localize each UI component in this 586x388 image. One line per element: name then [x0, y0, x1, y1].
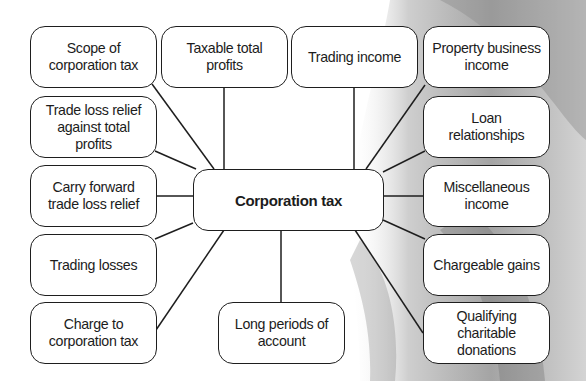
node-label: Long periods of account [235, 316, 328, 350]
node-label: Trading income [308, 49, 401, 66]
node-label: Loan relationships [449, 110, 525, 144]
node-long-periods-of-account: Long periods of account [218, 302, 345, 364]
node-trading-income: Trading income [291, 26, 418, 88]
node-label: Taxable total profits [187, 40, 263, 74]
node-carry-forward-trade-loss-relief: Carry forward trade loss relief [30, 165, 157, 227]
node-label: Trade loss relief against total profits [46, 102, 141, 153]
node-label: Trading losses [50, 257, 138, 274]
node-label: Charge to corporation tax [49, 316, 138, 350]
node-trade-loss-relief: Trade loss relief against total profits [30, 96, 157, 158]
node-label: Scope of corporation tax [49, 40, 138, 74]
node-charge-to-corporation-tax: Charge to corporation tax [30, 302, 157, 364]
node-label: Chargeable gains [433, 257, 539, 274]
node-qualifying-charitable-donations: Qualifying charitable donations [423, 302, 550, 364]
node-corporation-tax-center: Corporation tax [193, 169, 384, 231]
center-label: Corporation tax [235, 192, 342, 209]
node-property-business-income: Property business income [423, 26, 550, 88]
node-label: Carry forward trade loss relief [48, 179, 139, 213]
node-label: Miscellaneous income [444, 179, 530, 213]
node-miscellaneous-income: Miscellaneous income [423, 165, 550, 227]
node-trading-losses: Trading losses [30, 234, 157, 296]
node-loan-relationships: Loan relationships [423, 96, 550, 158]
node-scope-of-corporation-tax: Scope of corporation tax [30, 26, 157, 88]
node-label: Qualifying charitable donations [456, 308, 516, 359]
node-chargeable-gains: Chargeable gains [423, 234, 550, 296]
node-taxable-total-profits: Taxable total profits [161, 26, 288, 88]
node-label: Property business income [432, 40, 540, 74]
